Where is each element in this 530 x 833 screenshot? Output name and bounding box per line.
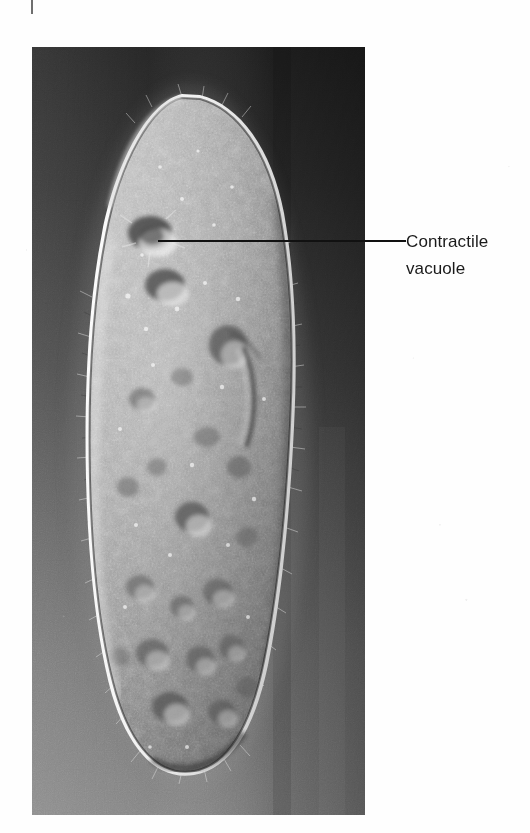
label-line-1: Contractile [406, 228, 530, 255]
contractile-vacuole-label: Contractile vacuole [406, 228, 530, 282]
figure-page: Contractile vacuole [0, 0, 530, 833]
label-line-2: vacuole [406, 255, 530, 282]
contractile-vacuole-leader-line [158, 240, 406, 242]
registration-tick [31, 0, 33, 14]
paramecium-micrograph [32, 47, 365, 815]
micrograph-plate [32, 47, 365, 815]
